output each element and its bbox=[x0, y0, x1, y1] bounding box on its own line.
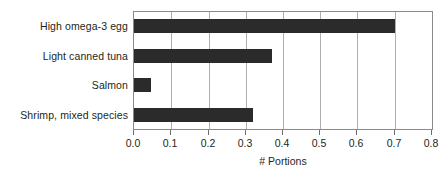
x-axis-tick bbox=[319, 130, 320, 135]
x-axis-tick-label: 0.3 bbox=[225, 137, 265, 149]
category-label: Shrimp, mixed species bbox=[0, 109, 128, 121]
bar bbox=[134, 19, 395, 33]
x-axis-tick bbox=[245, 130, 246, 135]
bar-chart: High omega-3 eggLight canned tunaSalmonS… bbox=[0, 0, 448, 181]
x-axis-tick-label: 0.0 bbox=[113, 137, 153, 149]
category-axis-labels: High omega-3 eggLight canned tunaSalmonS… bbox=[0, 11, 128, 130]
x-axis-tick bbox=[356, 130, 357, 135]
category-label: Light canned tuna bbox=[0, 50, 128, 62]
x-axis-title: # Portions bbox=[133, 155, 433, 167]
x-axis-tick-label: 0.8 bbox=[411, 137, 448, 149]
bar bbox=[134, 78, 151, 92]
x-axis-tick bbox=[208, 130, 209, 135]
x-axis-tick-label: 0.7 bbox=[374, 137, 414, 149]
bars-layer bbox=[134, 12, 432, 129]
x-axis-tick-label: 0.5 bbox=[299, 137, 339, 149]
x-axis-tick-label: 0.6 bbox=[336, 137, 376, 149]
x-axis-tick-label: 0.1 bbox=[150, 137, 190, 149]
category-label: Salmon bbox=[0, 79, 128, 91]
x-axis-tick bbox=[431, 130, 432, 135]
bar bbox=[134, 108, 253, 122]
x-axis-tick-label: 0.4 bbox=[262, 137, 302, 149]
x-axis-tick-label: 0.2 bbox=[188, 137, 228, 149]
x-axis-tick bbox=[170, 130, 171, 135]
bar bbox=[134, 49, 272, 63]
x-axis-tick bbox=[133, 130, 134, 135]
category-label: High omega-3 egg bbox=[0, 20, 128, 32]
x-axis-tick bbox=[394, 130, 395, 135]
x-axis-tick bbox=[282, 130, 283, 135]
